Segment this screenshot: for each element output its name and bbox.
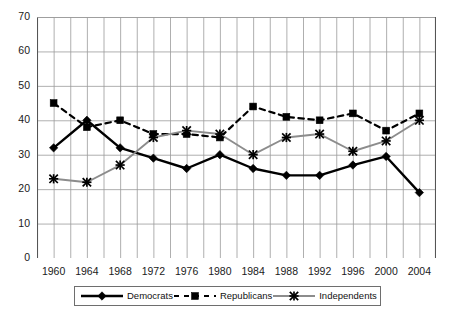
data-point-independents: [348, 147, 357, 156]
legend-item-democrats[interactable]: Democrats: [80, 289, 173, 303]
series-layer: [37, 17, 436, 258]
legend-item-independents[interactable]: Independents: [272, 289, 377, 303]
data-point-democrats: [249, 164, 257, 172]
legend-label: Independents: [319, 291, 377, 301]
data-point-democrats: [149, 154, 157, 162]
data-point-democrats: [216, 151, 224, 159]
y-tick-label: 10: [2, 218, 30, 229]
data-point-independents: [49, 174, 58, 183]
legend-label: Democrats: [127, 291, 173, 301]
data-point-independents: [82, 178, 91, 187]
plot-area: [37, 17, 436, 258]
series-line-republicans: [54, 103, 420, 137]
data-point-democrats: [282, 171, 290, 179]
legend-swatch-square-icon: [173, 289, 217, 303]
data-point-independents: [116, 160, 125, 169]
data-point-independents: [315, 129, 324, 138]
data-point-independents: [382, 136, 391, 145]
y-tick-label: 50: [2, 80, 30, 91]
data-point-republicans: [316, 117, 323, 124]
data-point-republicans: [349, 110, 356, 117]
data-point-independents: [149, 133, 158, 142]
y-tick-label: 20: [2, 183, 30, 194]
y-tick-label: 40: [2, 114, 30, 125]
legend-swatch-x-star-icon: [272, 289, 316, 303]
y-tick-label: 70: [2, 11, 30, 22]
data-point-republicans: [83, 124, 90, 131]
data-point-democrats: [349, 161, 357, 169]
data-point-independents: [415, 116, 424, 125]
data-point-independents: [249, 150, 258, 159]
series-line-independents: [54, 120, 420, 182]
legend-item-republicans[interactable]: Republicans: [173, 289, 272, 303]
chart-legend: DemocratsRepublicansIndependents: [74, 286, 381, 306]
series-line-democrats: [54, 120, 420, 192]
y-tick-label: 30: [2, 149, 30, 160]
data-point-republicans: [50, 100, 57, 107]
data-point-democrats: [315, 171, 323, 179]
y-tick-label: 0: [2, 252, 30, 263]
line-chart: 010203040506070 196019641968197219761980…: [0, 0, 455, 316]
legend-swatch-diamond-icon: [80, 289, 124, 303]
data-point-republicans: [383, 127, 390, 134]
y-tick-label: 60: [2, 45, 30, 56]
data-point-republicans: [250, 103, 257, 110]
data-point-independents: [215, 129, 224, 138]
x-tick-label: 2004: [399, 266, 439, 277]
legend-label: Republicans: [220, 291, 272, 301]
data-point-republicans: [283, 113, 290, 120]
data-point-democrats: [182, 164, 190, 172]
data-point-independents: [282, 133, 291, 142]
data-point-republicans: [117, 117, 124, 124]
data-point-independents: [182, 126, 191, 135]
